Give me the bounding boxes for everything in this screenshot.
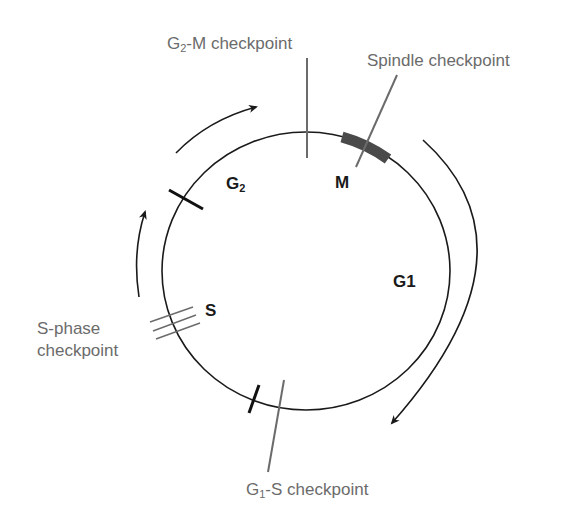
s-phase-label-line2: checkpoint <box>37 340 118 362</box>
g1-phase-label: G1 <box>393 273 416 290</box>
g1s-checkpoint-label: G1-S checkpoint <box>246 481 368 498</box>
g1s-checkpoint-line <box>268 380 284 472</box>
g1s-post: -S checkpoint <box>265 480 368 499</box>
s-phase-label-line1: S-phase <box>37 318 118 340</box>
g2-phase-label: G2 <box>226 175 245 192</box>
g2m-checkpoint-label: G2-M checkpoint <box>167 35 292 52</box>
spindle-checkpoint-label: Spindle checkpoint <box>367 52 510 69</box>
s-phase-label: S <box>205 302 216 319</box>
s-phase-checkpoint-label: S-phase checkpoint <box>37 318 118 362</box>
g2-main: G <box>226 174 239 193</box>
cycle-arrow-left-icon <box>137 212 145 297</box>
s-phase-checkpoint-lines <box>150 307 200 339</box>
g2m-pre: G <box>167 34 180 53</box>
g2-sub: 2 <box>239 182 245 194</box>
cell-cycle-circle <box>162 132 450 410</box>
g1s-pre: G <box>246 480 259 499</box>
g2m-post: -M checkpoint <box>186 34 292 53</box>
m-phase-label: M <box>335 174 349 191</box>
cell-cycle-diagram <box>0 0 586 520</box>
